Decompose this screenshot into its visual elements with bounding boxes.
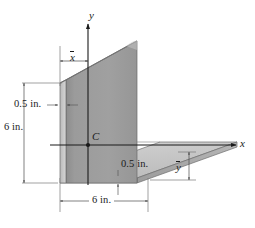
centroid-label: C xyxy=(92,131,99,142)
y-bar-text: y xyxy=(176,161,181,173)
flange-thickness-label: 0.5 in. xyxy=(121,159,148,170)
x-axis-label: x xyxy=(240,138,245,149)
centroid-point xyxy=(86,143,90,147)
y-axis-label: y xyxy=(89,10,94,21)
angle-section-figure: y x C x y 0.5 in. 6 in. 0.5 in. 6 in. xyxy=(0,0,255,228)
angle-solid xyxy=(60,41,237,183)
y-bar-label: y xyxy=(176,158,181,174)
overall-height-label: 6 in. xyxy=(4,122,23,133)
vertical-web-side-face xyxy=(60,80,66,183)
x-bar-text: x xyxy=(70,51,75,63)
diagram-canvas xyxy=(0,0,255,228)
overall-width-label: 6 in. xyxy=(89,195,114,206)
web-thickness-label: 0.5 in. xyxy=(14,99,41,110)
x-bar-label: x xyxy=(70,48,75,64)
